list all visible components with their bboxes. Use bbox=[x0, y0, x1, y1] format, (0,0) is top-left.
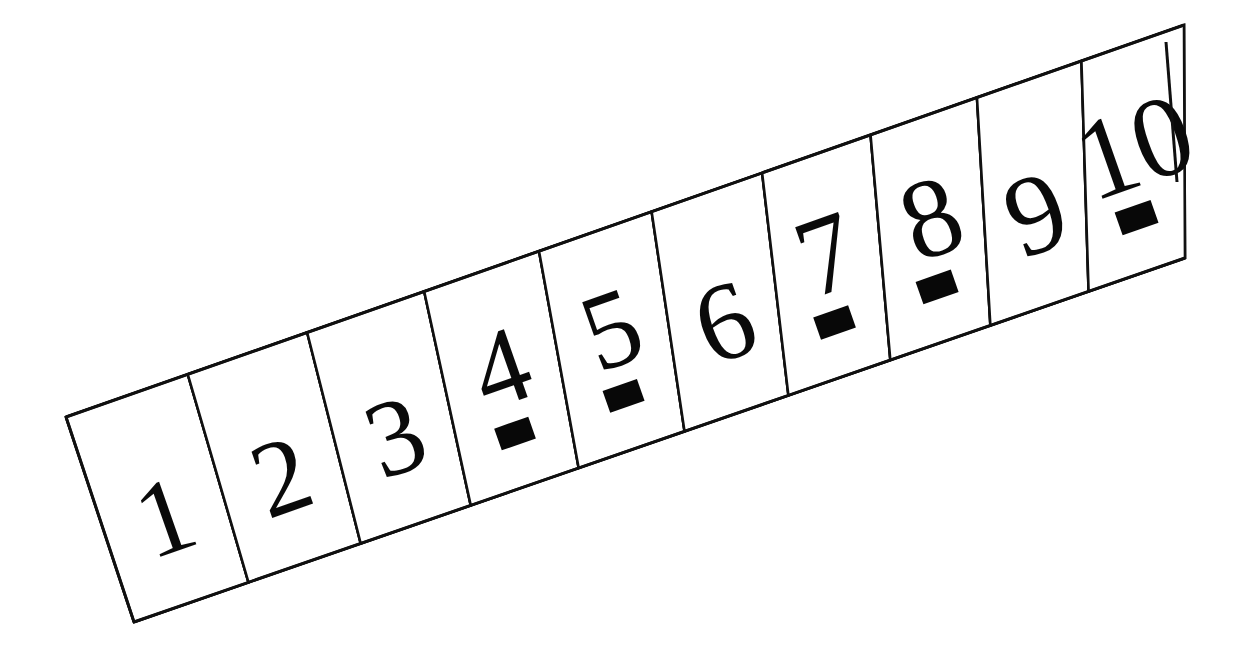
strip-cell-8[interactable]: 8 bbox=[871, 98, 991, 360]
numbered-card-strip: 12345678910 bbox=[0, 0, 1250, 664]
cells-layer: 12345678910 bbox=[66, 25, 1210, 622]
strip-scene: 12345678910 1 2 3 4 5 6 7 8 9 10 4, 5, 7… bbox=[0, 0, 1250, 664]
